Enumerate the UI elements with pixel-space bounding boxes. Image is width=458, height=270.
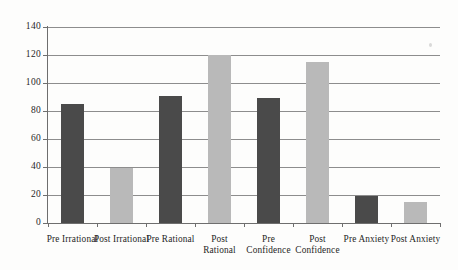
- gridline: [48, 195, 440, 196]
- x-axis-tick-mark: [440, 223, 441, 227]
- gridline: [48, 111, 440, 112]
- y-axis-tick-mark: [43, 111, 48, 112]
- bar-pre-rational[interactable]: [159, 96, 182, 223]
- y-axis-tick-mark: [43, 27, 48, 28]
- bar-post-confidence[interactable]: [306, 62, 329, 223]
- bar-post-anxiety[interactable]: [404, 202, 427, 223]
- y-axis-tick-mark: [43, 167, 48, 168]
- x-axis-tick-mark: [342, 223, 343, 227]
- bar-post-rational[interactable]: [208, 55, 231, 223]
- y-axis-tick-label: 0: [0, 217, 41, 227]
- y-axis-tick-mark: [43, 83, 48, 84]
- gridline: [48, 55, 440, 56]
- y-axis-tick-label: 80: [0, 105, 41, 115]
- bar-post-irrational[interactable]: [110, 168, 133, 223]
- x-axis-label-post-anxiety: Post Anxiety: [381, 234, 450, 245]
- y-axis-tick-label: 40: [0, 161, 41, 171]
- gridline: [48, 27, 440, 28]
- y-axis-tick-label: 60: [0, 133, 41, 143]
- y-axis-tick-label: 140: [0, 21, 41, 31]
- y-axis-tick-mark: [43, 55, 48, 56]
- x-axis-tick-mark: [97, 223, 98, 227]
- bar-chart: 020406080100120140 Pre IrrationalPost Ir…: [0, 0, 458, 270]
- gridline: [48, 139, 440, 140]
- x-axis-tick-mark: [244, 223, 245, 227]
- x-axis-tick-mark: [293, 223, 294, 227]
- y-axis-tick-mark: [43, 195, 48, 196]
- x-axis-tick-mark: [48, 223, 49, 227]
- y-axis-tick-label: 120: [0, 49, 41, 59]
- bar-pre-irrational[interactable]: [61, 104, 84, 223]
- x-axis-tick-mark: [146, 223, 147, 227]
- gridline: [48, 83, 440, 84]
- gridline: [48, 167, 440, 168]
- scan-artifact-speck: [429, 43, 432, 47]
- y-axis-tick-mark: [43, 139, 48, 140]
- plot-area: [48, 27, 440, 223]
- x-axis-tick-mark: [195, 223, 196, 227]
- bar-pre-anxiety[interactable]: [355, 196, 378, 223]
- bar-pre-confidence[interactable]: [257, 98, 280, 223]
- y-axis-tick-label: 100: [0, 77, 41, 87]
- y-axis-tick-label: 20: [0, 189, 41, 199]
- x-axis-tick-mark: [391, 223, 392, 227]
